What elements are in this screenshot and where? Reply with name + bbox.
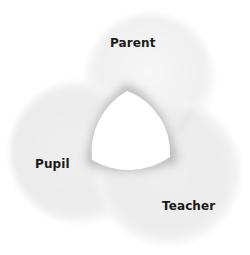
label-parent: Parent	[110, 36, 156, 50]
label-teacher: Teacher	[162, 199, 215, 213]
label-pupil: Pupil	[35, 157, 70, 171]
venn-diagram: Parent Pupil Teacher	[0, 0, 250, 255]
